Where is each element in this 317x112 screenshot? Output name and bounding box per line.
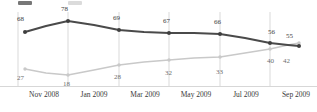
x-tick-label-0: Nov 2008 bbox=[29, 90, 59, 99]
series-light-line bbox=[23, 41, 300, 76]
x-tick-label-4: Jul 2009 bbox=[233, 90, 259, 99]
data-label-dark-6: 55 bbox=[286, 33, 293, 40]
data-label-light-5: 40 bbox=[267, 58, 274, 65]
data-label-dark-1: 78 bbox=[61, 6, 68, 13]
data-label-light-6: 42 bbox=[283, 58, 290, 65]
data-label-dark-2: 69 bbox=[113, 15, 120, 22]
data-label-dark-0: 68 bbox=[17, 16, 24, 23]
legend-swatch-dark-icon bbox=[18, 1, 32, 5]
chart-figure: 68 78 69 67 66 56 55 27 18 28 32 33 40 4… bbox=[0, 0, 317, 112]
x-axis-line bbox=[0, 86, 317, 87]
x-tick-label-1: Jan 2009 bbox=[81, 90, 108, 99]
data-label-light-3: 32 bbox=[165, 70, 172, 77]
plot-area: 68 78 69 67 66 56 55 27 18 28 32 33 40 4… bbox=[18, 12, 306, 86]
data-label-light-0: 27 bbox=[17, 75, 24, 82]
x-tick-label-3: May 2009 bbox=[181, 90, 212, 99]
data-label-dark-5: 56 bbox=[268, 29, 275, 36]
x-tick-label-2: Mar 2009 bbox=[130, 90, 159, 99]
chart-svg bbox=[18, 12, 306, 86]
legend-swatch-light-icon bbox=[68, 1, 82, 5]
series-light-markers bbox=[23, 41, 300, 76]
series-dark-line bbox=[23, 19, 301, 48]
legend-strip bbox=[0, 0, 317, 10]
x-tick-label-5: Sep 2009 bbox=[282, 90, 310, 99]
data-label-light-4: 33 bbox=[216, 69, 223, 76]
data-label-light-2: 28 bbox=[114, 74, 121, 81]
x-axis-labels: Nov 2008 Jan 2009 Mar 2009 May 2009 Jul … bbox=[0, 90, 317, 110]
data-label-dark-3: 67 bbox=[163, 18, 170, 25]
data-label-dark-4: 66 bbox=[214, 19, 221, 26]
